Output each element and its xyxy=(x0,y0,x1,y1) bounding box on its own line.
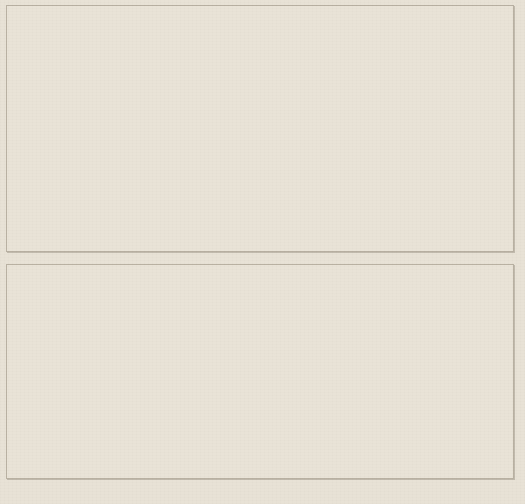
chart-panel-gep xyxy=(6,5,514,252)
figure-page xyxy=(0,0,525,504)
figure-caption xyxy=(0,496,525,504)
chart-panel-regulating-service xyxy=(6,264,514,479)
